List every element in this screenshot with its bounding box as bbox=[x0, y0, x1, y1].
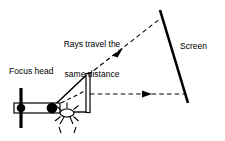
rays-travel-label: Rays travel the same distance bbox=[57, 19, 127, 99]
focal-point-ellipse bbox=[60, 109, 74, 117]
ray-diagram-figure: Rays travel the same distance Screen Foc… bbox=[0, 0, 225, 141]
focus-head-front-node bbox=[47, 103, 58, 114]
screen-line bbox=[160, 10, 188, 103]
horizontal-ray-arrowhead bbox=[142, 91, 152, 98]
focus-head-back-node bbox=[17, 104, 26, 113]
focus-head-label: Focus head bbox=[9, 66, 53, 76]
rays-travel-label-line1: Rays travel the bbox=[57, 39, 127, 49]
screen-label: Screen bbox=[180, 41, 207, 51]
rays-travel-label-line2: same distance bbox=[57, 69, 127, 79]
